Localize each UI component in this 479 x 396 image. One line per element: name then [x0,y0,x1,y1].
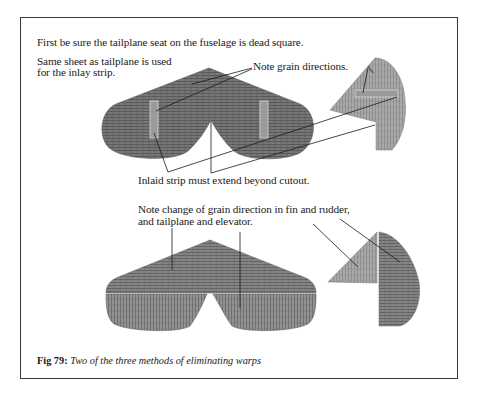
grain-directions-note: Note grain directions. [253,61,348,73]
upper-tailplane [102,68,314,159]
figure-caption: Fig 79: Two of the three methods of elim… [37,355,261,366]
caption-label: Fig 79: [37,355,68,366]
sheet-note-line2: for the inlay strip. [37,67,115,79]
intro-text: First be sure the tailplane seat on the … [37,37,303,49]
inlay-strip-right [260,101,268,138]
lower-rudder [379,232,420,326]
grain-change-note-line2: and tailplane and elevator. [138,216,253,228]
lower-tailplane [106,240,316,293]
lower-elevator [106,294,316,331]
fin-inlay-strip [355,90,398,97]
lower-fin [328,232,377,283]
grain-change-note-line1: Note change of grain direction in fin an… [138,204,350,216]
inlay-strip-left [150,101,158,138]
caption-text: Two of the three methods of eliminating … [70,355,261,366]
inlaid-strip-note: Inlaid strip must extend beyond cutout. [138,175,309,187]
